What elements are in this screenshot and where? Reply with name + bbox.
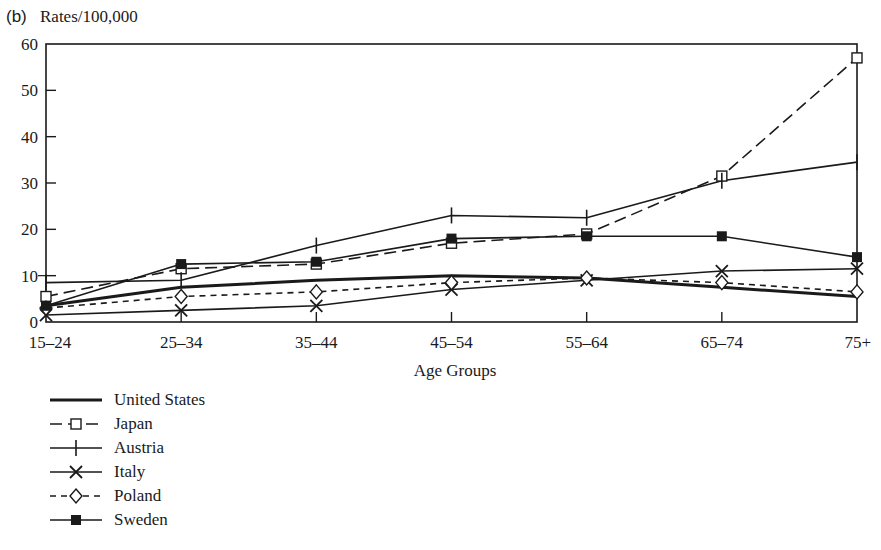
series-line-japan: [46, 58, 857, 297]
legend-swatch-filled-square-icon: [48, 510, 104, 530]
x-axis-label: Age Groups: [414, 361, 497, 380]
legend-swatch-dashed-diamond-icon: [48, 486, 104, 506]
legend-swatch-dashed-square-icon: [48, 414, 104, 434]
y-axis-label: Rates/100,000: [40, 7, 138, 26]
x-tick-label: 35–44: [295, 333, 338, 352]
y-tick-label: 40: [21, 128, 38, 147]
legend-swatch-plus-icon: [48, 438, 104, 458]
x-axis-ticks: 15–2425–3435–4445–5455–6465–7475+: [29, 312, 871, 352]
legend: United States Japan Austria Italy Poland…: [48, 388, 205, 532]
y-axis-ticks: 0102030405060: [21, 35, 56, 332]
x-tick-label: 75+: [844, 333, 871, 352]
legend-item-poland: Poland: [48, 484, 205, 508]
legend-item-sweden: Sweden: [48, 508, 205, 532]
y-tick-label: 20: [21, 220, 38, 239]
x-tick-label: 25–34: [160, 333, 203, 352]
legend-label: Italy: [114, 462, 145, 482]
y-tick-label: 50: [21, 81, 38, 100]
legend-label: United States: [114, 390, 205, 410]
line-chart: (b) Rates/100,000 0102030405060 15–2425–…: [0, 0, 881, 380]
legend-item-japan: Japan: [48, 412, 205, 436]
legend-swatch-x-icon: [48, 462, 104, 482]
y-tick-label: 30: [21, 174, 38, 193]
x-tick-label: 65–74: [701, 333, 744, 352]
y-tick-label: 0: [30, 313, 39, 332]
panel-label: (b): [6, 7, 27, 26]
legend-label: Japan: [114, 414, 153, 434]
legend-label: Sweden: [114, 510, 168, 530]
legend-item-united-states: United States: [48, 388, 205, 412]
x-tick-label: 45–54: [430, 333, 473, 352]
x-tick-label: 55–64: [565, 333, 608, 352]
legend-label: Poland: [114, 486, 161, 506]
y-tick-label: 10: [21, 267, 38, 286]
y-tick-label: 60: [21, 35, 38, 54]
legend-item-austria: Austria: [48, 436, 205, 460]
legend-item-italy: Italy: [48, 460, 205, 484]
x-tick-label: 15–24: [29, 333, 72, 352]
legend-label: Austria: [114, 438, 164, 458]
legend-swatch-solid-thick-icon: [48, 390, 104, 410]
